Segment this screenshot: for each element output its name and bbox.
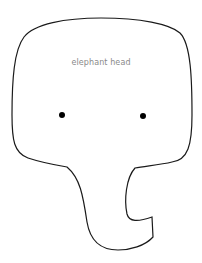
head-shape (12, 18, 192, 250)
elephant-head-outline (0, 0, 202, 263)
diagram-label: elephant head (0, 58, 202, 67)
left-eye (59, 112, 65, 118)
right-eye (140, 113, 146, 119)
